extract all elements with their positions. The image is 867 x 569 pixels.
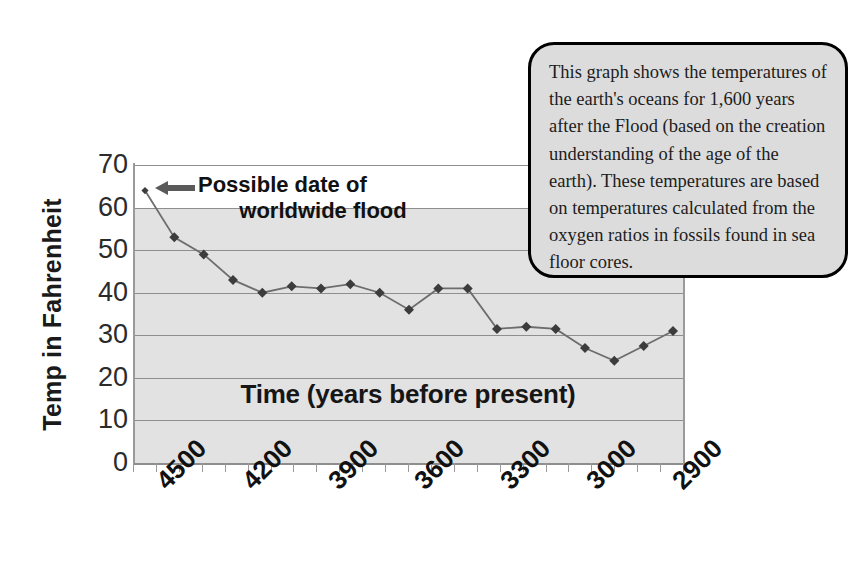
y-axis-tick-label: 10: [76, 406, 128, 433]
x-axis-tick-mark: [293, 463, 294, 472]
flood-annotation-line2: worldwide flood: [198, 198, 448, 224]
x-axis-tick-mark: [660, 463, 661, 472]
data-point-marker: [521, 322, 531, 332]
y-axis-tick-label: 0: [76, 449, 128, 476]
flood-annotation-line1: Possible date of: [198, 172, 448, 198]
y-axis-tick-label: 30: [76, 321, 128, 348]
data-point-marker: [287, 281, 297, 291]
data-point-marker: [580, 343, 590, 353]
y-axis-tick-label: 50: [76, 236, 128, 263]
x-axis-tick-mark: [225, 463, 226, 472]
data-point-marker: [316, 283, 326, 293]
data-point-marker: [345, 279, 355, 289]
y-axis-tick-label: 40: [76, 279, 128, 306]
x-axis-tick-mark: [477, 463, 478, 472]
data-point-marker: [609, 356, 619, 366]
x-axis-tick-mark: [637, 463, 638, 472]
x-axis-tick-mark: [316, 463, 317, 472]
data-point-marker: [169, 232, 179, 242]
x-axis-tick-mark: [408, 463, 409, 472]
data-point-marker: [668, 326, 678, 336]
ocean-temperature-chart: 706050403020100 Temp in Fahrenheit Time …: [0, 0, 867, 569]
y-axis-tick-labels: 706050403020100: [70, 0, 128, 569]
explanatory-callout: This graph shows the temperatures of the…: [528, 42, 848, 278]
data-point-marker: [551, 324, 561, 334]
data-point-marker: [639, 341, 649, 351]
x-axis-tick-mark: [568, 463, 569, 472]
callout-text: This graph shows the temperatures of the…: [549, 59, 827, 277]
x-axis-tick-mark: [133, 463, 134, 472]
y-axis-tick-label: 20: [76, 364, 128, 391]
y-axis-tick-label: 60: [76, 194, 128, 221]
y-axis-title: Temp in Fahrenheit: [38, 185, 67, 445]
flood-annotation: Possible date of worldwide flood: [198, 172, 448, 224]
x-axis-tick-mark: [385, 463, 386, 472]
left-arrow-icon: [155, 180, 195, 196]
data-point-marker: [375, 288, 385, 298]
y-axis-tick-label: 70: [76, 151, 128, 178]
data-point-marker: [257, 288, 267, 298]
